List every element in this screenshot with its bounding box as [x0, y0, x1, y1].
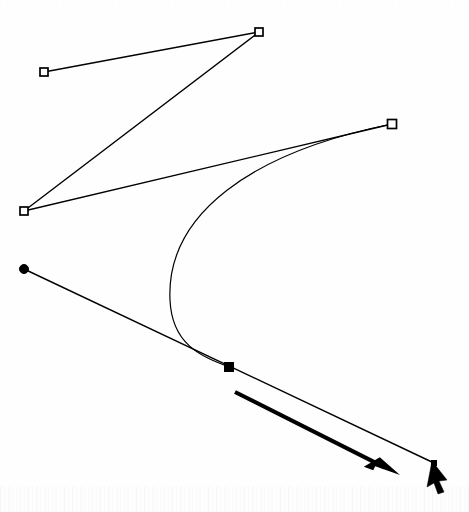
control-handle-2-marker[interactable]: [255, 28, 263, 36]
start-anchor-point[interactable]: [20, 265, 29, 274]
control-handle-3-marker[interactable]: [20, 207, 28, 215]
end-anchor-point[interactable]: [432, 461, 437, 466]
direction-arrow: [235, 392, 400, 475]
control-handle-1-marker[interactable]: [40, 68, 48, 76]
control-handle-4-marker[interactable]: [388, 120, 397, 129]
vector-drawing-canvas[interactable]: [0, 0, 469, 512]
selected-anchor-point[interactable]: [225, 363, 234, 372]
control-handle-polyline: [24, 32, 392, 211]
bezier-curve[interactable]: [170, 124, 392, 367]
node-markers: [20, 28, 437, 466]
vector-graphics-figure: [0, 0, 469, 512]
